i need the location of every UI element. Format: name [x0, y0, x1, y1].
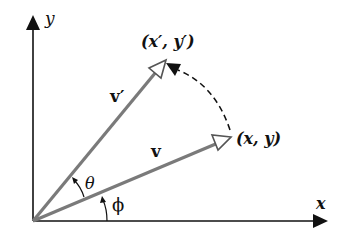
vector-v-prime	[33, 60, 166, 221]
x-axis-label: x	[316, 196, 326, 212]
phi-arc	[100, 196, 107, 221]
phi-label: ϕ	[112, 196, 124, 214]
x-axis	[33, 214, 328, 228]
vector-v	[33, 135, 231, 221]
y-axis-label: y	[45, 10, 55, 27]
phi-arrowhead-icon	[100, 196, 106, 203]
x-axis-arrowhead-icon	[313, 214, 328, 228]
v-prime-endpoint-label: (x′, y′)	[141, 34, 195, 50]
rotation-arc	[166, 63, 230, 130]
v-endpoint-label: (x, y)	[236, 131, 281, 147]
y-axis	[26, 15, 40, 221]
v-arrowhead-icon	[212, 135, 231, 150]
y-axis-arrowhead-icon	[26, 15, 40, 30]
theta-label: θ	[85, 176, 95, 192]
v-label: v	[151, 143, 161, 160]
theta-arc	[72, 177, 84, 197]
v-prime-label: v′	[110, 88, 124, 105]
